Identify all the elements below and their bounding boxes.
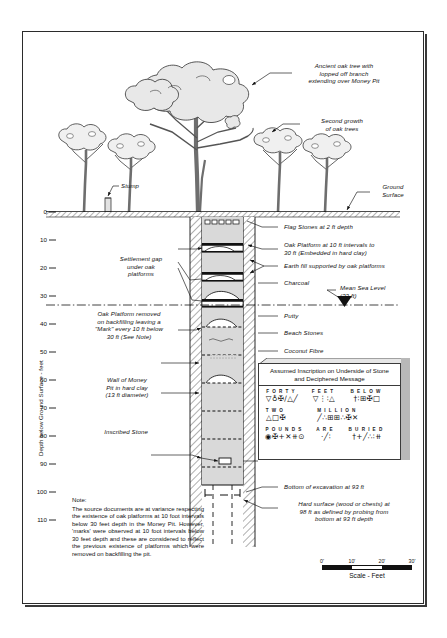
cipher-word-plain: BURIED	[345, 427, 389, 432]
charcoal-layer	[210, 355, 236, 360]
bottom-of-excavation	[202, 485, 243, 497]
second-growth-oak-right-2	[303, 134, 351, 212]
label-beach-stones: Beach Stones	[284, 329, 354, 337]
scale-segment	[323, 566, 352, 569]
depth-axis	[49, 212, 56, 520]
label-bottom-excavation: Bottom of excavation at 93 ft	[284, 483, 414, 491]
axis-tick-90: 90	[25, 460, 47, 467]
label-earth-fill: Earth fill supported by oak platforms	[284, 262, 414, 270]
cipher-word-plain: TWO	[263, 408, 289, 413]
inscribed-stone	[219, 458, 231, 464]
label-hard-surface: Hard surface (wood or chests) at 98 ft a…	[282, 500, 406, 523]
panel-divider	[259, 385, 400, 386]
cipher-word-symbols: †∶⊞✠□	[347, 394, 387, 403]
cross-section-artwork	[0, 0, 447, 638]
second-growth-oak-left-1	[59, 124, 106, 212]
figure-page: 0 10 20 30 40 50 60 70 80 90 100 110 Dep…	[0, 0, 447, 638]
label-stump: Stump	[121, 182, 161, 190]
note-body: The source documents are at variance res…	[72, 506, 204, 559]
scale-tick-30: 30'	[409, 558, 416, 564]
second-growth-oak-right-1	[254, 128, 302, 212]
axis-tick-0: 0	[25, 208, 47, 215]
note-block: Note: The source documents are at varian…	[72, 496, 204, 558]
label-second-growth: Second growth of oak trees	[302, 117, 382, 132]
label-ancient-oak: Ancient oak tree with lopped off branch …	[293, 62, 395, 85]
cipher-word-plain: ARE	[314, 427, 338, 432]
cipher-row: POUNDS ARE BURIED ◉✠+✕⧺⊙ ·╱∶ †+╱∴∶⧺	[263, 426, 397, 441]
label-mean-sea-level: Mean Sea Level (33 ft)	[340, 284, 410, 299]
label-wall-of-pit: Wall of Money Pit in hard clay (13 ft di…	[92, 376, 162, 399]
scale-segment	[352, 566, 381, 569]
cipher-word-symbols: †+╱∴∶⧺	[345, 432, 389, 441]
cipher-word-plain: FORTY	[263, 389, 301, 394]
cipher-word-plain: POUNDS	[263, 427, 307, 432]
oak-platform-20ft	[202, 272, 243, 282]
scale-bar-graphic	[322, 565, 412, 570]
axis-tick-40: 40	[25, 320, 47, 327]
cipher-symbol-row: △□✠ ╱∴⊞⊞∴✠✕	[263, 413, 397, 422]
inscription-title: Assumed Inscription on Underside of Ston…	[261, 367, 398, 383]
axis-tick-100: 100	[22, 488, 47, 495]
cipher-word-plain: MILLION	[309, 408, 367, 413]
cipher-symbol-row: ◉✠+✕⧺⊙ ·╱∶ †+╱∴∶⧺	[263, 432, 397, 441]
cipher-word-symbols: ╱∴⊞⊞∴✠✕	[309, 413, 367, 422]
cipher-word-symbols: ▽♁✠∕△╱	[263, 394, 301, 403]
cipher-row: FORTY FEET BELOW ▽♁✠∕△╱ ▽⋮∶△ †∶⊞✠□	[263, 388, 397, 403]
label-putty: Putty	[284, 312, 334, 320]
cipher-word-plain: FEET	[308, 389, 340, 394]
cipher-word-symbols: △□✠	[263, 413, 289, 422]
inscription-panel: Assumed Inscription on Underside of Ston…	[258, 358, 410, 461]
scale-tick-10: 10'	[349, 558, 356, 564]
cipher-symbol-row: ▽♁✠∕△╱ ▽⋮∶△ †∶⊞✠□	[263, 394, 397, 403]
scale-tick-labels: 0' 10' 20' 30'	[322, 558, 412, 565]
cipher-word-symbols: ◉✠+✕⧺⊙	[263, 432, 307, 441]
axis-tick-50: 50	[25, 348, 47, 355]
flag-stones-layer	[205, 220, 239, 224]
axis-tick-20: 20	[25, 264, 47, 271]
cipher-word-symbols: ▽⋮∶△	[308, 394, 340, 403]
axis-tick-110: 110	[22, 516, 47, 523]
scale-segment	[382, 566, 411, 569]
panel-side-bevel	[401, 358, 410, 460]
ground-surface	[46, 212, 400, 217]
cipher-rows: FORTY FEET BELOW ▽♁✠∕△╱ ▽⋮∶△ †∶⊞✠□ TWO	[263, 388, 397, 445]
scale-bar: 0' 10' 20' 30' Scale - Feet	[322, 558, 412, 579]
axis-title: Depth below Ground Surface - feet	[37, 360, 44, 456]
label-charcoal: Charcoal	[284, 279, 344, 287]
label-ground-surface: Ground Surface	[371, 183, 415, 198]
scale-caption: Scale - Feet	[322, 572, 412, 579]
label-oak-platform: Oak Platform at 10 ft intervals to 30 ft…	[284, 241, 408, 256]
scale-tick-0: 0'	[320, 558, 324, 564]
label-platform-removed: Oak Platform removed on backfilling leav…	[80, 310, 178, 340]
label-coconut-fibre: Coconut Fibre	[284, 347, 354, 355]
oak-platform-10ft	[202, 243, 243, 253]
label-flag-stones: Flag Stones at 2 ft depth	[284, 223, 404, 231]
label-inscribed-stone: Inscribed Stone	[76, 428, 148, 436]
axis-tick-10: 10	[25, 236, 47, 243]
second-growth-oak-left-2	[108, 134, 155, 212]
note-heading: Note:	[72, 496, 204, 503]
cipher-row: TWO MILLION △□✠ ╱∴⊞⊞∴✠✕	[263, 407, 397, 422]
stump	[105, 198, 111, 212]
cipher-word-symbols: ·╱∶	[314, 432, 338, 441]
label-settlement-gap: Settlement gap under oak platforms	[104, 255, 178, 278]
scale-tick-20: 20'	[379, 558, 386, 564]
axis-tick-30: 30	[25, 292, 47, 299]
cipher-word-plain: BELOW	[347, 389, 387, 394]
pit-earth-fill	[202, 217, 243, 485]
